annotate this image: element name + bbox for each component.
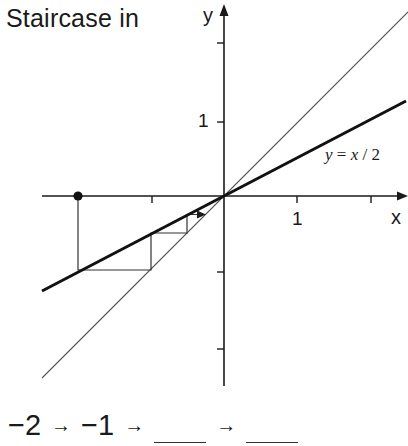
x-tick-label-1: 1 [292, 208, 303, 230]
start-point-dot [73, 191, 82, 200]
y-axis-arrowhead [220, 4, 229, 16]
staircase-plot [0, 0, 408, 446]
sequence-arrow-2: → [124, 414, 144, 437]
sequence-blank-1[interactable] [154, 412, 206, 443]
sequence-blank-2[interactable] [246, 412, 298, 443]
y-tick-label-1: 1 [198, 110, 209, 132]
staircase-path [78, 196, 198, 270]
curve-label-divide: / 2 [358, 145, 380, 164]
sequence-arrow-3: → [216, 414, 236, 437]
x-axis-arrowhead [397, 192, 408, 201]
y-axis-label: y [203, 4, 213, 27]
curve-label-y: y [325, 145, 333, 164]
iteration-sequence: −2 → −1 → → [8, 404, 298, 442]
sequence-value-1: −2 [8, 409, 41, 442]
sequence-arrow-1: → [51, 414, 71, 437]
curve-label-y-equals-x-over-2: y = x / 2 [325, 145, 380, 165]
sequence-value-2: −1 [81, 409, 114, 442]
x-axis-label: x [391, 206, 401, 229]
curve-label-equals: = [333, 145, 351, 164]
staircase-arrowhead [197, 211, 206, 219]
